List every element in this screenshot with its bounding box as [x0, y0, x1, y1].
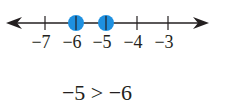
inequality-statement: −5 > −6 [0, 80, 194, 106]
tick-label: −7 [31, 32, 50, 52]
tick-labels: −7−6−5−4−3 [31, 32, 173, 52]
tick-label: −6 [62, 32, 81, 52]
tick-label: −4 [123, 32, 142, 52]
tick-label: −5 [92, 32, 111, 52]
tick-label: −3 [154, 32, 173, 52]
